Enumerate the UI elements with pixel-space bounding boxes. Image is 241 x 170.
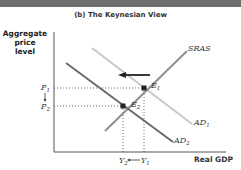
arrow-head-icon — [118, 72, 126, 78]
p2-label: P2 — [40, 102, 50, 112]
e2-label: E2 — [130, 100, 141, 110]
e1-label: E1 — [150, 81, 160, 91]
sras-curve — [105, 51, 187, 131]
ad1-label: AD1 — [193, 118, 210, 128]
p1-label: P1 — [40, 83, 50, 93]
ad2-label: AD2 — [173, 136, 190, 146]
e2-point — [121, 104, 126, 109]
e1-point — [142, 86, 147, 91]
y1-label: Y1 — [141, 156, 150, 166]
sras-label: SRAS — [188, 44, 211, 53]
y2-label: Y2 — [119, 156, 128, 166]
chart-plot: SRAS AD1 AD2 E1 E2 P1 P2 Y2 Y1 — [0, 0, 241, 170]
